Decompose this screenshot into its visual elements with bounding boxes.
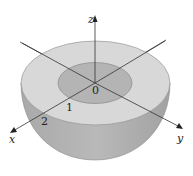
y-arrow-icon [176, 123, 183, 129]
hemisphere-shell-diagram: z x y 0 1 2 [0, 0, 193, 176]
diagram-canvas: z x y 0 1 2 [0, 0, 193, 176]
origin-label: 0 [92, 84, 99, 97]
outer-radius-label: 2 [41, 115, 48, 128]
y-axis-label: y [176, 132, 184, 145]
z-axis-label: z [87, 13, 94, 26]
x-axis-label: x [9, 133, 16, 146]
inner-radius-label: 1 [66, 101, 73, 114]
